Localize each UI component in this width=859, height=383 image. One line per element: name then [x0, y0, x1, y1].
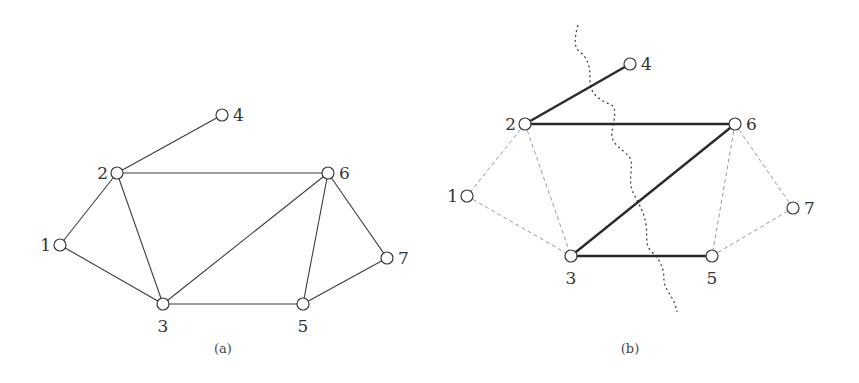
- node-3: [157, 298, 169, 310]
- edge-1-3: [467, 196, 571, 256]
- nodes-b: 1234567: [447, 54, 815, 288]
- node-label-4: 4: [641, 54, 652, 74]
- node-label-3: 3: [566, 268, 577, 288]
- node-label-4: 4: [233, 105, 244, 125]
- edge-5-7: [303, 258, 387, 304]
- panel-a: 1234567 (a): [40, 105, 409, 356]
- node-label-5: 5: [707, 268, 718, 288]
- node-2: [519, 118, 531, 130]
- edge-6-7: [735, 124, 793, 208]
- edge-2-3: [117, 173, 163, 304]
- node-label-7: 7: [398, 248, 409, 268]
- edge-6-5: [712, 124, 735, 256]
- node-label-6: 6: [746, 114, 757, 134]
- edge-2-1: [467, 124, 525, 196]
- edge-3-6: [163, 173, 328, 304]
- node-7: [787, 202, 799, 214]
- edge-6-3: [571, 124, 735, 256]
- edge-2-4: [117, 115, 222, 173]
- node-1: [461, 190, 473, 202]
- node-5: [297, 298, 309, 310]
- graph-figure: 1234567 (a) 1234567 (b): [0, 0, 859, 383]
- caption-a: (a): [214, 341, 232, 356]
- caption-b: (b): [621, 341, 639, 356]
- edge-6-7: [328, 173, 387, 258]
- edges-a: [60, 115, 387, 304]
- edge-1-3: [60, 245, 163, 304]
- edges-b: [467, 64, 793, 256]
- edge-5-7: [712, 208, 793, 256]
- node-1: [54, 239, 66, 251]
- node-4: [624, 58, 636, 70]
- node-7: [381, 252, 393, 264]
- node-4: [216, 109, 228, 121]
- node-6: [322, 167, 334, 179]
- edge-6-5: [303, 173, 328, 304]
- node-label-2: 2: [505, 114, 516, 134]
- node-label-5: 5: [298, 316, 309, 336]
- node-label-3: 3: [158, 316, 169, 336]
- node-label-1: 1: [447, 186, 458, 206]
- node-3: [565, 250, 577, 262]
- node-6: [729, 118, 741, 130]
- nodes-a: 1234567: [40, 105, 409, 336]
- edge-2-3: [525, 124, 571, 256]
- edge-2-1: [60, 173, 117, 245]
- node-label-1: 1: [40, 235, 51, 255]
- node-2: [111, 167, 123, 179]
- node-5: [706, 250, 718, 262]
- node-label-7: 7: [804, 198, 815, 218]
- node-label-6: 6: [339, 163, 350, 183]
- node-label-2: 2: [97, 163, 108, 183]
- panel-b: 1234567 (b): [447, 25, 815, 356]
